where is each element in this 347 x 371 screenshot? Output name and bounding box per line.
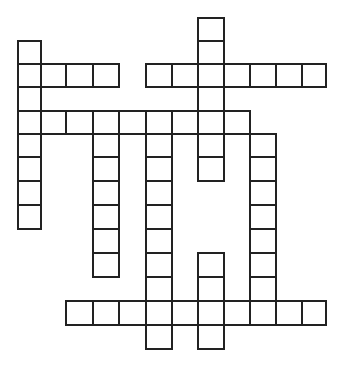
crossword-cell-r2-c7[interactable] [197,63,225,88]
crossword-cell-r2-c9[interactable] [249,63,277,88]
crossword-cell-r12-c6[interactable] [171,300,199,326]
crossword-cell-r4-c6[interactable] [171,110,199,135]
crossword-grid [0,0,347,371]
crossword-cell-r7-c3[interactable] [92,180,120,206]
crossword-cell-r12-c7[interactable] [197,300,225,326]
crossword-cell-r3-c0[interactable] [17,86,42,112]
crossword-cell-r12-c8[interactable] [223,300,251,326]
crossword-cell-r7-c9[interactable] [249,180,277,206]
crossword-cell-r8-c0[interactable] [17,204,42,230]
crossword-cell-r4-c7[interactable] [197,110,225,135]
crossword-cell-r3-c7[interactable] [197,86,225,112]
crossword-cell-r8-c9[interactable] [249,204,277,230]
crossword-cell-r2-c0[interactable] [17,63,42,88]
crossword-cell-r5-c3[interactable] [92,133,120,158]
crossword-cell-r5-c5[interactable] [145,133,173,158]
crossword-cell-r12-c5[interactable] [145,300,173,326]
crossword-cell-r2-c10[interactable] [275,63,303,88]
crossword-cell-r5-c0[interactable] [17,133,42,158]
crossword-cell-r12-c2[interactable] [65,300,94,326]
crossword-cell-r6-c7[interactable] [197,156,225,182]
crossword-cell-r2-c3[interactable] [92,63,120,88]
crossword-cell-r9-c9[interactable] [249,228,277,254]
crossword-cell-r5-c9[interactable] [249,133,277,158]
crossword-cell-r11-c9[interactable] [249,276,277,302]
crossword-cell-r2-c11[interactable] [301,63,327,88]
crossword-cell-r6-c0[interactable] [17,156,42,182]
crossword-cell-r11-c7[interactable] [197,276,225,302]
crossword-cell-r2-c8[interactable] [223,63,251,88]
crossword-cell-r2-c6[interactable] [171,63,199,88]
crossword-cell-r12-c10[interactable] [275,300,303,326]
crossword-cell-r12-c11[interactable] [301,300,327,326]
crossword-cell-r2-c1[interactable] [40,63,67,88]
crossword-cell-r4-c0[interactable] [17,110,42,135]
crossword-cell-r8-c3[interactable] [92,204,120,230]
crossword-cell-r12-c9[interactable] [249,300,277,326]
crossword-cell-r11-c5[interactable] [145,276,173,302]
crossword-cell-r10-c5[interactable] [145,252,173,278]
crossword-cell-r7-c0[interactable] [17,180,42,206]
crossword-cell-r10-c3[interactable] [92,252,120,278]
crossword-cell-r12-c3[interactable] [92,300,120,326]
crossword-cell-r4-c3[interactable] [92,110,120,135]
crossword-cell-r12-c4[interactable] [118,300,147,326]
crossword-cell-r2-c2[interactable] [65,63,94,88]
crossword-cell-r10-c9[interactable] [249,252,277,278]
crossword-cell-r4-c1[interactable] [40,110,67,135]
crossword-cell-r4-c5[interactable] [145,110,173,135]
crossword-cell-r6-c5[interactable] [145,156,173,182]
crossword-cell-r6-c3[interactable] [92,156,120,182]
crossword-cell-r1-c0[interactable] [17,40,42,65]
crossword-cell-r13-c7[interactable] [197,324,225,350]
crossword-cell-r6-c9[interactable] [249,156,277,182]
crossword-cell-r8-c5[interactable] [145,204,173,230]
crossword-cell-r13-c5[interactable] [145,324,173,350]
crossword-cell-r10-c7[interactable] [197,252,225,278]
crossword-cell-r2-c5[interactable] [145,63,173,88]
crossword-cell-r7-c5[interactable] [145,180,173,206]
crossword-cell-r9-c5[interactable] [145,228,173,254]
crossword-cell-r5-c7[interactable] [197,133,225,158]
crossword-cell-r4-c4[interactable] [118,110,147,135]
crossword-cell-r9-c3[interactable] [92,228,120,254]
crossword-cell-r0-c7[interactable] [197,17,225,42]
crossword-cell-r1-c7[interactable] [197,40,225,65]
crossword-cell-r4-c2[interactable] [65,110,94,135]
crossword-cell-r4-c8[interactable] [223,110,251,135]
